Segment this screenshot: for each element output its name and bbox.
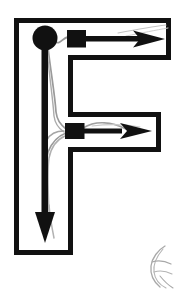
diagram-canvas: Letter F schematic diagram F filled circ… <box>0 0 187 291</box>
arrow-top-shaft <box>85 36 141 42</box>
arrow-middle-shaft <box>83 129 122 134</box>
letter-f-diagram-svg <box>0 0 187 291</box>
block-top <box>67 30 86 48</box>
arrow-down-shaft <box>42 44 49 216</box>
node-circle <box>33 26 58 51</box>
block-middle <box>65 123 85 139</box>
